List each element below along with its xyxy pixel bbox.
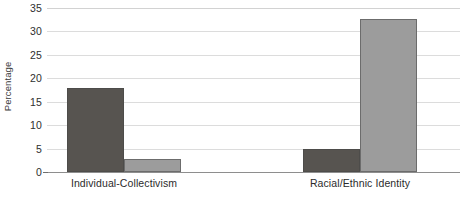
figure-bottom-margin	[0, 198, 468, 208]
bar-chart: Percentage 05101520253035 Individual-Col…	[0, 0, 468, 208]
y-tick-label-10: 10	[14, 119, 42, 131]
y-tick-label-5: 5	[14, 143, 42, 155]
y-tick-label-30: 30	[14, 25, 42, 37]
y-tick-label-20: 20	[14, 72, 42, 84]
y-tick-label-25: 25	[14, 49, 42, 61]
bar-0-0	[67, 88, 124, 172]
y-axis-zero-tick	[43, 172, 48, 173]
y-tick-label-15: 15	[14, 96, 42, 108]
y-tick-label-35: 35	[14, 2, 42, 14]
gridline-35	[47, 8, 460, 9]
y-axis-title-text: Percentage	[3, 61, 14, 111]
bar-1-1	[360, 19, 417, 172]
x-axis-category-label-1: Racial/Ethnic Identity	[310, 177, 410, 189]
bar-0-1	[124, 159, 181, 172]
x-axis-category-label-0: Individual-Collectivism	[71, 177, 177, 189]
bar-1-0	[303, 149, 360, 172]
y-tick-label-0: 0	[14, 166, 42, 178]
y-axis-tick-labels: 05101520253035	[14, 0, 42, 180]
x-axis-line	[47, 172, 460, 173]
plot-area	[47, 8, 460, 172]
